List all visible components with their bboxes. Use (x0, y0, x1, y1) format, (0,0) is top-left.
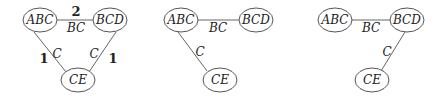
diagram-clique-graph: ABC BCD CE 2 BC 1 C C 1 (23, 4, 127, 92)
edge-label-abc-ce: C (195, 45, 204, 59)
edge-label-abc-bcd: BC (361, 21, 380, 35)
edge-label-bcd-ce: C (89, 47, 98, 61)
node-bcd-label: BCD (392, 13, 421, 27)
edge-weight-bcd-ce: 1 (108, 51, 117, 66)
node-bcd-label: BCD (95, 13, 124, 27)
node-bcd-label: BCD (241, 13, 270, 27)
edge-weight-abc-ce: 1 (39, 51, 48, 66)
edge-label-abc-bcd: BC (66, 21, 85, 35)
node-abc-label: ABC (167, 13, 195, 27)
node-ce-label: CE (69, 73, 87, 87)
diagram-junction-tree-b: ABC BCD CE BC C (318, 8, 424, 92)
edge-label-bcd-ce: C (382, 45, 391, 59)
diagram-junction-tree-a: ABC BCD CE BC C (164, 8, 273, 92)
edge-label-abc-bcd: BC (208, 21, 227, 35)
junction-tree-diagrams: ABC BCD CE 2 BC 1 C C 1 ABC BCD CE BC C … (0, 0, 440, 103)
node-ce-label: CE (363, 73, 381, 87)
edge-weight-abc-bcd: 2 (71, 4, 80, 19)
edge-label-abc-ce: C (52, 47, 61, 61)
node-abc-label: ABC (26, 13, 54, 27)
node-ce-label: CE (211, 73, 229, 87)
node-abc-label: ABC (321, 13, 349, 27)
